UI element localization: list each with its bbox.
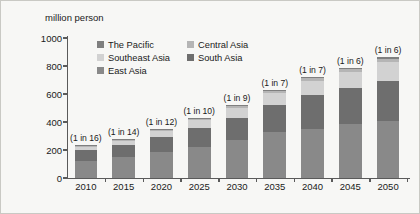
legend-label: Southeast Asia xyxy=(108,53,170,63)
bar-segment[interactable] xyxy=(263,93,286,105)
y-tick-label: 400 xyxy=(46,117,62,128)
bar-segment[interactable] xyxy=(188,147,211,179)
x-tick-label: 2025 xyxy=(189,181,210,192)
bar-annotation: (1 in 7) xyxy=(261,78,288,88)
bar-segment[interactable] xyxy=(75,150,98,161)
y-tick-mark xyxy=(63,65,67,66)
x-tick-mark xyxy=(143,178,144,182)
legend-item[interactable]: East Asia xyxy=(97,66,187,76)
legend-label: East Asia xyxy=(108,66,147,76)
bar-column[interactable]: (1 in 12) xyxy=(150,129,173,178)
bar-annotation: (1 in 12) xyxy=(146,117,178,127)
bar-segment[interactable] xyxy=(301,95,324,129)
bar-annotation: (1 in 16) xyxy=(70,133,102,143)
bar-segment[interactable] xyxy=(226,118,249,140)
x-tick-label: 2045 xyxy=(340,181,361,192)
bar-segment[interactable] xyxy=(263,132,286,178)
bar-column[interactable]: (1 in 14) xyxy=(112,139,135,178)
legend-item[interactable]: The Pacific xyxy=(97,40,187,50)
legend-label: The Pacific xyxy=(108,40,154,50)
y-tick-mark xyxy=(63,149,67,150)
bar-segment[interactable] xyxy=(75,161,98,179)
legend-label: Central Asia xyxy=(198,40,248,50)
x-tick-label: 2010 xyxy=(75,181,96,192)
bar-segment[interactable] xyxy=(226,140,249,178)
bar-annotation: (1 in 10) xyxy=(183,106,215,116)
legend-swatch-icon xyxy=(187,54,194,61)
bar-column[interactable]: (1 in 10) xyxy=(188,118,211,178)
x-tick-mark xyxy=(180,178,181,182)
y-tick-label: 0 xyxy=(57,173,62,184)
y-tick-label: 600 xyxy=(46,89,62,100)
bar-segment[interactable] xyxy=(150,152,173,178)
bar-column[interactable]: (1 in 6) xyxy=(339,68,362,178)
bar-segment[interactable] xyxy=(377,62,400,81)
x-tick-mark xyxy=(294,178,295,182)
bar-column[interactable]: (1 in 9) xyxy=(226,105,249,178)
bar-segment[interactable] xyxy=(112,157,135,178)
legend-swatch-icon xyxy=(97,67,104,74)
bar-segment[interactable] xyxy=(301,81,324,95)
x-tick-mark xyxy=(331,178,332,182)
legend-label: South Asia xyxy=(198,53,242,63)
bar-annotation: (1 in 14) xyxy=(108,127,140,137)
legend-item[interactable]: Southeast Asia xyxy=(97,53,187,63)
x-tick-label: 2050 xyxy=(378,181,399,192)
y-tick-mark xyxy=(63,93,67,94)
bar-column[interactable]: (1 in 16) xyxy=(75,145,98,178)
y-tick-mark xyxy=(63,37,67,38)
x-tick-label: 2030 xyxy=(226,181,247,192)
bar-column[interactable]: (1 in 6) xyxy=(377,57,400,178)
bar-segment[interactable] xyxy=(263,105,286,132)
x-tick-mark xyxy=(369,178,370,182)
bar-segment[interactable] xyxy=(301,129,324,178)
x-tick-label: 2035 xyxy=(264,181,285,192)
bar-column[interactable]: (1 in 7) xyxy=(263,90,286,178)
bar-annotation: (1 in 6) xyxy=(375,45,402,55)
bar-segment[interactable] xyxy=(339,88,362,124)
x-tick-mark xyxy=(256,178,257,182)
bar-segment[interactable] xyxy=(339,72,362,88)
bar-column[interactable]: (1 in 7) xyxy=(301,77,324,178)
legend-item[interactable]: Central Asia xyxy=(187,40,282,50)
x-tick-mark xyxy=(105,178,106,182)
x-tick-mark xyxy=(407,178,408,182)
y-tick-mark xyxy=(63,177,67,178)
bar-annotation: (1 in 6) xyxy=(337,56,364,66)
bar-segment[interactable] xyxy=(188,128,211,147)
bar-segment[interactable] xyxy=(377,121,400,178)
bar-segment[interactable] xyxy=(112,145,135,157)
bar-segment[interactable] xyxy=(150,137,173,152)
bar-annotation: (1 in 7) xyxy=(299,65,326,75)
x-tick-label: 2040 xyxy=(302,181,323,192)
chart-figure: million person 02004006008001000 (1 in 1… xyxy=(0,0,420,214)
legend-swatch-icon xyxy=(97,41,104,48)
bar-segment[interactable] xyxy=(188,120,211,128)
y-tick-mark xyxy=(63,121,67,122)
bar-segment[interactable] xyxy=(339,124,362,178)
legend-swatch-icon xyxy=(187,41,194,48)
x-tick-label: 2015 xyxy=(113,181,134,192)
y-axis-unit-label: million person xyxy=(45,12,104,23)
bar-annotation: (1 in 9) xyxy=(224,93,251,103)
legend-swatch-icon xyxy=(97,54,104,61)
legend-item[interactable]: South Asia xyxy=(187,53,282,63)
x-tick-label: 2020 xyxy=(151,181,172,192)
bar-segment[interactable] xyxy=(226,108,249,118)
x-tick-mark xyxy=(218,178,219,182)
y-tick-label: 200 xyxy=(46,145,62,156)
chart-legend: The PacificCentral AsiaSoutheast AsiaSou… xyxy=(97,38,282,77)
y-tick-label: 800 xyxy=(46,61,62,72)
y-tick-label: 1000 xyxy=(41,33,62,44)
bar-segment[interactable] xyxy=(377,81,400,122)
